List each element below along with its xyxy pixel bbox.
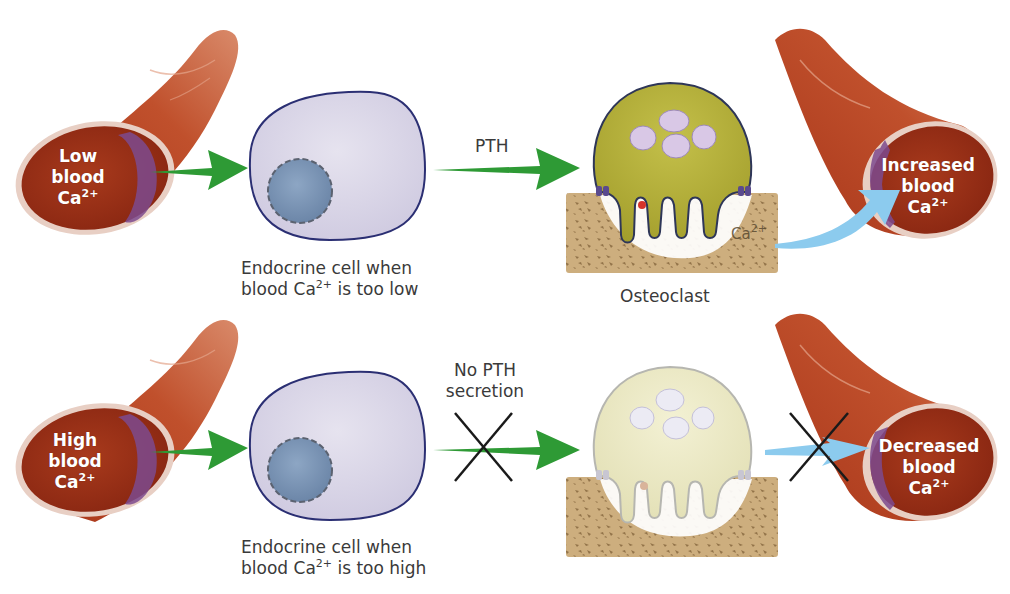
blood-vessel-high-calcium — [6, 320, 238, 529]
caption-text: is too low — [332, 279, 418, 299]
bone-calcium-ion: Ca2+ — [731, 225, 767, 243]
ca-text: Ca — [908, 197, 932, 217]
ca-text: Ca — [909, 478, 933, 498]
bone-matrix-bottom — [566, 477, 778, 557]
vessel-label-line: Increased — [868, 155, 988, 176]
blood-vessel-low-calcium — [6, 30, 238, 247]
charge-superscript: 2+ — [79, 471, 96, 484]
charge-superscript: 2+ — [751, 222, 767, 235]
label-line: secretion — [430, 381, 540, 402]
vessel-label-decreased: Decreased blood Ca2+ — [868, 436, 990, 499]
vessel-label-line: Low — [48, 146, 108, 167]
charge-superscript: 2+ — [316, 557, 332, 570]
endocrine-cell-low — [250, 92, 425, 240]
vessel-label-low: Low blood Ca2+ — [48, 146, 108, 209]
blocked-pth-arrow — [433, 413, 580, 481]
caption-text: is too high — [332, 558, 426, 578]
osteoclast-caption: Osteoclast — [620, 286, 710, 307]
vessel-label-line: blood — [868, 176, 988, 197]
vessel-label-high: High blood Ca2+ — [44, 430, 106, 493]
charge-superscript: 2+ — [933, 477, 950, 490]
vessel-label-line: blood — [48, 167, 108, 188]
pth-label: PTH — [475, 136, 508, 157]
ca-text: Ca — [55, 472, 79, 492]
caption-text: blood Ca — [241, 279, 316, 299]
vessel-label-line: blood — [44, 451, 106, 472]
charge-superscript: 2+ — [316, 278, 332, 291]
pth-calcium-diagram: Low blood Ca2+ Endocrine cell when blood… — [0, 0, 1010, 594]
vessel-label-increased: Increased blood Ca2+ — [868, 155, 988, 218]
vessel-label-line: Decreased — [868, 436, 990, 457]
blood-vessel-increased-calcium — [775, 29, 1010, 254]
charge-superscript: 2+ — [932, 196, 949, 209]
label-line: No PTH — [430, 360, 540, 381]
endocrine-cell-high — [250, 372, 425, 520]
caption-text: blood Ca — [241, 558, 316, 578]
charge-superscript: 2+ — [82, 187, 99, 200]
ca-text: Ca — [731, 225, 751, 243]
caption-line: Endocrine cell when — [241, 258, 418, 279]
endocrine-caption-high: Endocrine cell when blood Ca2+ is too hi… — [241, 537, 426, 579]
ca-text: Ca — [58, 188, 82, 208]
endocrine-caption-low: Endocrine cell when blood Ca2+ is too lo… — [241, 258, 418, 300]
vessel-label-line: blood — [868, 457, 990, 478]
vessel-label-line: High — [44, 430, 106, 451]
blood-vessel-decreased-calcium — [775, 314, 1010, 536]
caption-line: Endocrine cell when — [241, 537, 426, 558]
no-pth-secretion-label: No PTH secretion — [430, 360, 540, 402]
